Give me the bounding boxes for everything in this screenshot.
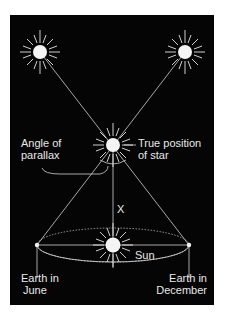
earth-december-icon <box>187 243 191 247</box>
earth-june-icon <box>35 243 39 247</box>
angle-of-parallax-label: Angle of parallax <box>21 137 61 161</box>
label-line: June <box>21 284 59 296</box>
label-line: Earth in <box>21 272 59 284</box>
label-line: of star <box>138 149 201 161</box>
apparent-star-left-icon <box>20 30 60 74</box>
label-line: Earth in <box>150 272 207 284</box>
true-star-icon <box>93 123 133 167</box>
label-line: True position <box>138 137 201 149</box>
true-position-label: True position of star <box>138 137 201 161</box>
angle-leader <box>42 166 108 174</box>
label-line: Angle of <box>21 137 61 149</box>
label-line: December <box>150 284 207 296</box>
earth-june-label: Earth in June <box>21 272 59 296</box>
sun-label: Sun <box>135 249 155 261</box>
distance-label: X <box>117 203 124 215</box>
earth-december-label: Earth in December <box>150 272 207 296</box>
label-line: parallax <box>21 149 61 161</box>
apparent-star-right-icon <box>165 30 205 74</box>
sun-icon <box>93 223 133 267</box>
